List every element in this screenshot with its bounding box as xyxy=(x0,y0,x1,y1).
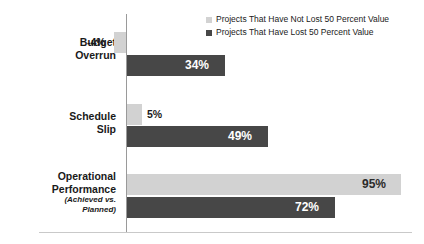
category-sublabel-operational-line2: Planned) xyxy=(6,205,116,215)
chart-legend: Projects That Have Not Lost 50 Percent V… xyxy=(206,14,389,40)
bar-value-schedule-lost: 49% xyxy=(228,126,252,147)
legend-label-not-lost: Projects That Have Not Lost 50 Percent V… xyxy=(216,14,389,25)
x-axis-baseline xyxy=(39,232,412,233)
bar-chart: Projects That Have Not Lost 50 Percent V… xyxy=(0,0,424,244)
bar-budget-lost xyxy=(127,55,225,76)
bar-value-budget-not-lost: -4% xyxy=(87,32,106,53)
legend-swatch-icon-not-lost xyxy=(206,17,212,23)
bar-value-schedule-not-lost: 5% xyxy=(147,104,162,125)
category-label-schedule-line2: Slip xyxy=(97,123,116,135)
bar-budget-not-lost xyxy=(114,32,126,53)
bar-value-operational-not-lost: 95% xyxy=(362,174,386,195)
bar-operational-not-lost xyxy=(127,174,401,195)
legend-label-lost: Projects That Have Lost 50 Percent Value xyxy=(216,27,374,38)
legend-item-not-lost: Projects That Have Not Lost 50 Percent V… xyxy=(206,14,389,25)
category-sublabel-operational-line1: (Achieved vs. xyxy=(6,195,116,205)
category-label-schedule-slip: Schedule Slip xyxy=(6,110,116,135)
legend-swatch-icon-lost xyxy=(206,30,212,36)
category-label-operational-line2: Performance xyxy=(52,183,116,195)
category-label-operational-performance: Operational Performance (Achieved vs. Pl… xyxy=(6,170,116,215)
bar-value-budget-lost: 34% xyxy=(185,55,209,76)
legend-item-lost: Projects That Have Lost 50 Percent Value xyxy=(206,27,389,38)
category-label-schedule-line1: Schedule xyxy=(69,110,116,122)
category-label-operational-line1: Operational xyxy=(58,170,116,182)
bar-value-operational-lost: 72% xyxy=(295,197,319,218)
bar-schedule-not-lost xyxy=(127,104,142,125)
